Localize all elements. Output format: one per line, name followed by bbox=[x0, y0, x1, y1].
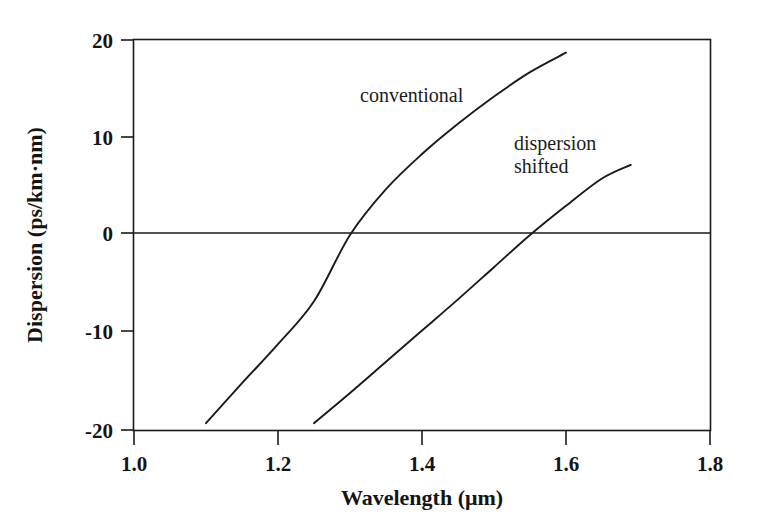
chart-canvas: 20 10 0 -10 -20 1.0 1.2 1.4 1.6 1.8 Wave… bbox=[0, 0, 759, 532]
series-line-conventional bbox=[206, 53, 566, 424]
y-tick-label-0: 0 bbox=[103, 222, 114, 246]
x-tick-label-1-0: 1.0 bbox=[121, 452, 147, 476]
x-tick-label-1-2: 1.2 bbox=[265, 452, 291, 476]
x-axis-title: Wavelength (μm) bbox=[341, 485, 503, 510]
y-axis-title: Dispersion (ps/km·nm) bbox=[22, 127, 47, 343]
series-line-dispersion-shifted bbox=[314, 165, 631, 423]
x-tick-label-1-4: 1.4 bbox=[409, 452, 436, 476]
y-tick-label-minus-10: -10 bbox=[85, 320, 113, 344]
x-tick-label-1-6: 1.6 bbox=[553, 452, 579, 476]
x-axis-ticks bbox=[134, 431, 710, 446]
y-axis-ticks bbox=[121, 40, 134, 430]
y-tick-label-20: 20 bbox=[92, 29, 113, 53]
annotation-dispersion: dispersion bbox=[514, 132, 596, 155]
dispersion-vs-wavelength-figure: 20 10 0 -10 -20 1.0 1.2 1.4 1.6 1.8 Wave… bbox=[0, 0, 759, 532]
y-tick-label-minus-20: -20 bbox=[85, 419, 113, 443]
annotation-shifted: shifted bbox=[514, 155, 568, 177]
y-tick-label-10: 10 bbox=[92, 126, 113, 150]
annotation-conventional: conventional bbox=[360, 84, 464, 106]
x-tick-label-1-8: 1.8 bbox=[697, 452, 723, 476]
